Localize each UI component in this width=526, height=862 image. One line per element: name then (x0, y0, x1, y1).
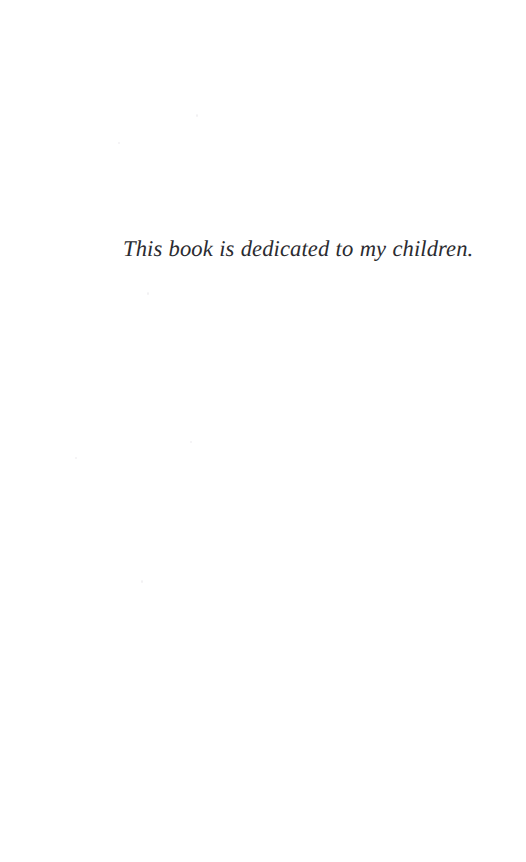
scan-speckle (75, 457, 77, 459)
page-content-area: This book is dedicated to my children. (0, 0, 526, 862)
dedication-text: This book is dedicated to my children. (123, 236, 383, 262)
book-page: This book is dedicated to my children. (0, 0, 526, 862)
scan-speckle (147, 292, 149, 295)
scan-speckle (118, 142, 120, 144)
scan-speckle (196, 114, 198, 117)
scan-speckle (141, 580, 143, 583)
scan-speckle (190, 441, 192, 443)
